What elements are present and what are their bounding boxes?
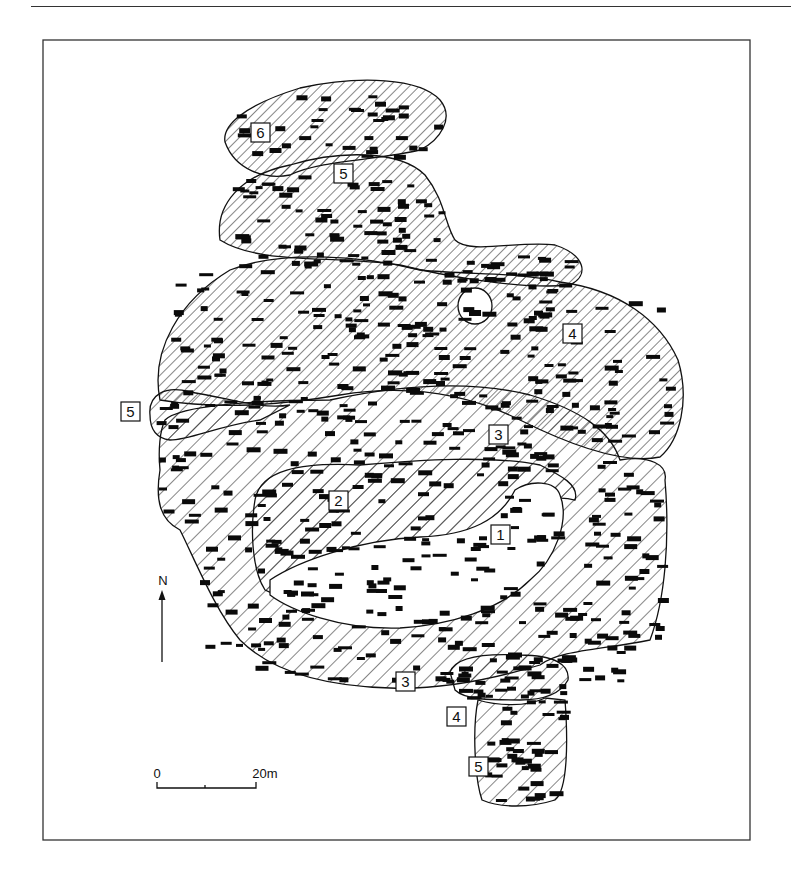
find-marker — [394, 585, 406, 590]
find-marker — [537, 562, 545, 567]
find-marker — [625, 576, 638, 581]
find-marker — [561, 660, 572, 663]
find-marker — [615, 370, 623, 373]
find-marker — [310, 125, 318, 128]
find-marker — [368, 113, 378, 117]
find-marker — [383, 577, 391, 581]
find-marker — [399, 228, 406, 233]
find-marker — [406, 388, 420, 393]
find-marker — [464, 347, 476, 350]
find-marker — [534, 389, 542, 394]
find-marker — [175, 312, 182, 317]
find-marker — [197, 288, 204, 292]
find-marker — [407, 342, 419, 347]
find-marker — [655, 635, 662, 640]
find-marker — [170, 404, 179, 409]
find-marker — [272, 186, 283, 191]
find-marker — [599, 488, 606, 492]
find-marker — [328, 353, 338, 356]
find-marker — [383, 222, 392, 226]
find-marker — [270, 148, 282, 153]
find-marker — [176, 419, 189, 423]
find-marker — [540, 277, 548, 281]
find-marker — [585, 639, 592, 644]
find-marker — [563, 608, 577, 612]
find-marker — [282, 615, 289, 620]
find-marker — [476, 567, 489, 571]
find-marker — [518, 467, 531, 472]
find-marker — [440, 611, 450, 616]
find-marker — [441, 378, 450, 381]
find-marker — [376, 589, 387, 593]
find-marker — [243, 195, 256, 198]
find-marker — [340, 259, 354, 262]
find-marker — [353, 485, 364, 489]
find-marker — [501, 720, 512, 725]
find-marker — [421, 541, 430, 545]
find-marker — [422, 538, 429, 541]
find-marker — [324, 284, 331, 288]
find-marker — [415, 322, 427, 327]
find-marker — [546, 307, 555, 311]
find-marker — [471, 578, 478, 581]
find-marker — [565, 260, 579, 263]
find-marker — [221, 642, 232, 645]
find-marker — [402, 325, 413, 330]
find-marker — [439, 355, 450, 360]
find-marker — [197, 376, 211, 380]
find-marker — [528, 764, 541, 769]
find-marker — [252, 318, 264, 321]
find-marker — [344, 409, 356, 412]
find-marker — [656, 626, 665, 631]
find-marker — [290, 291, 304, 294]
find-marker — [363, 303, 370, 306]
find-marker — [481, 606, 495, 611]
find-marker — [527, 742, 541, 745]
find-marker — [531, 346, 538, 350]
find-marker — [214, 374, 222, 377]
find-marker — [351, 532, 361, 535]
find-marker — [540, 272, 554, 277]
find-marker — [485, 447, 498, 451]
site-plan-diagram: 6 5 4 5 3 2 1 3 4 5 N 0 20m — [0, 0, 791, 889]
find-marker — [434, 238, 441, 242]
find-marker — [440, 328, 447, 332]
find-marker — [459, 689, 473, 693]
find-marker — [666, 387, 676, 391]
find-marker — [391, 478, 405, 483]
find-marker — [200, 453, 212, 457]
find-marker — [256, 186, 263, 189]
find-marker — [266, 540, 275, 543]
find-marker — [396, 136, 408, 140]
find-marker — [381, 630, 389, 635]
find-marker — [618, 488, 631, 491]
find-marker — [398, 199, 406, 204]
zone-label-5-west-text: 5 — [126, 403, 134, 420]
find-marker — [382, 180, 392, 183]
find-marker — [424, 203, 432, 207]
find-marker — [259, 255, 269, 259]
zone-label-4-lower: 4 — [447, 707, 466, 726]
find-marker — [558, 717, 565, 720]
find-marker — [220, 369, 227, 374]
find-marker — [426, 259, 437, 262]
find-marker — [317, 411, 329, 416]
find-marker — [406, 371, 419, 375]
find-marker — [300, 519, 309, 522]
find-marker — [262, 661, 276, 664]
find-marker — [369, 182, 380, 186]
find-marker — [264, 299, 274, 302]
find-marker — [297, 95, 308, 100]
find-marker — [329, 584, 342, 589]
find-marker — [481, 264, 489, 268]
find-marker — [534, 602, 547, 605]
find-marker — [414, 281, 425, 284]
find-marker — [568, 372, 578, 375]
find-marker — [482, 312, 496, 317]
find-marker — [172, 466, 179, 471]
find-marker — [497, 671, 508, 674]
find-marker — [299, 175, 312, 179]
find-marker — [411, 526, 421, 530]
find-marker — [377, 231, 387, 235]
find-marker — [310, 666, 324, 669]
